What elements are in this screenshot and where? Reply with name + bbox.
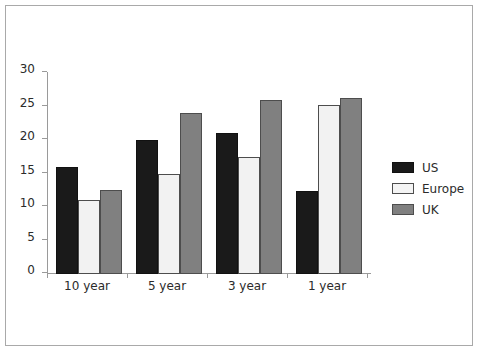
bar-europe-10-year: [78, 200, 100, 274]
bar-us-10-year: [56, 167, 78, 274]
bar-uk-3-year: [260, 100, 282, 274]
bar-uk-5-year: [180, 113, 202, 274]
bar-europe-3-year: [238, 157, 260, 274]
legend-item-us: US: [392, 157, 472, 178]
x-axis-label: 10 year: [47, 280, 127, 292]
y-tick: 5: [42, 239, 47, 240]
legend-swatch-us: [392, 162, 414, 173]
bar-us-1-year: [296, 191, 318, 274]
legend-item-europe: Europe: [392, 178, 472, 199]
legend-label: Europe: [422, 183, 464, 195]
x-axis-separator: [367, 273, 368, 278]
x-axis-label: 1 year: [287, 280, 367, 292]
chart-figure: 051015202530 10 year5 year3 year1 year U…: [0, 0, 479, 352]
y-tick: 20: [42, 138, 47, 139]
bar-us-5-year: [136, 140, 158, 274]
y-tick: 15: [42, 172, 47, 173]
y-tick: 10: [42, 205, 47, 206]
x-axis-separator: [127, 273, 128, 278]
x-axis-separator: [47, 273, 48, 278]
chart-legend: USEuropeUK: [392, 157, 472, 220]
y-tick-label: 25: [20, 97, 35, 109]
y-axis-line: [47, 72, 48, 274]
x-axis-separator: [207, 273, 208, 278]
y-tick-label: 0: [27, 264, 35, 276]
x-axis-separator: [287, 273, 288, 278]
y-tick-label: 30: [20, 63, 35, 75]
y-tick: 30: [42, 71, 47, 72]
x-axis-label: 5 year: [127, 280, 207, 292]
legend-swatch-europe: [392, 183, 414, 194]
y-tick: 25: [42, 105, 47, 106]
y-tick-label: 5: [27, 231, 35, 243]
y-tick-label: 20: [20, 130, 35, 142]
legend-item-uk: UK: [392, 199, 472, 220]
legend-swatch-uk: [392, 204, 414, 215]
bar-uk-1-year: [340, 98, 362, 274]
legend-label: UK: [422, 204, 439, 216]
y-tick-label: 10: [20, 197, 35, 209]
x-axis-label: 3 year: [207, 280, 287, 292]
y-tick-label: 15: [20, 164, 35, 176]
legend-label: US: [422, 162, 438, 174]
bar-europe-5-year: [158, 174, 180, 275]
bar-uk-10-year: [100, 190, 122, 274]
bar-europe-1-year: [318, 105, 340, 275]
bar-us-3-year: [216, 133, 238, 274]
plot-area: 051015202530 10 year5 year3 year1 year: [47, 66, 371, 279]
